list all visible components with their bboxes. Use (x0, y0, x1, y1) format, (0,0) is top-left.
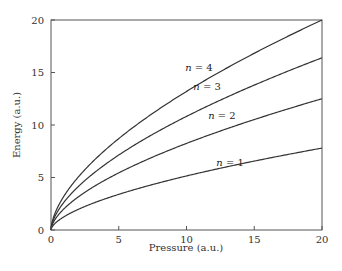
x-axis-label: Pressure (a.u.) (149, 242, 224, 253)
y-tick-label: 15 (31, 67, 44, 78)
curve-n4 (51, 20, 322, 230)
plot-border (51, 20, 322, 230)
y-tick-label: 5 (38, 172, 44, 183)
y-axis-label: Energy (a.u.) (11, 92, 22, 158)
curve-n2 (51, 99, 322, 230)
x-tick-label: 15 (248, 234, 261, 245)
x-tick-label: 20 (316, 234, 329, 245)
line-chart: n = 1n = 2n = 3n = 4 05101520 05101520 P… (0, 0, 342, 271)
curve-label: n = 1 (216, 157, 244, 168)
y-tick-label: 20 (31, 15, 44, 26)
curve-label: n = 4 (185, 62, 213, 73)
x-tick-label: 5 (116, 234, 122, 245)
curve-labels: n = 1n = 2n = 3n = 4 (185, 62, 244, 168)
plot-frame (51, 20, 322, 230)
curve-n1 (51, 148, 322, 230)
x-tick-label: 0 (48, 234, 54, 245)
curve-label: n = 3 (193, 81, 221, 92)
curves (51, 20, 322, 230)
curve-label: n = 2 (208, 110, 236, 121)
y-tick-label: 0 (38, 225, 44, 236)
y-tick-label: 10 (31, 120, 44, 131)
